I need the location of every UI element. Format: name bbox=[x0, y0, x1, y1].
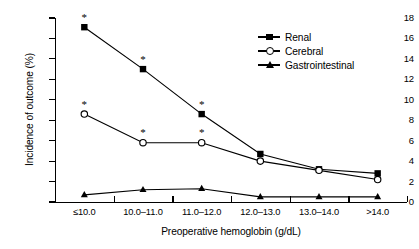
legend-marker-square-icon bbox=[258, 31, 280, 43]
significance-marker-renal-1: * bbox=[140, 53, 146, 65]
data-point-cerebral-2 bbox=[198, 140, 204, 146]
legend-label-cerebral: Cerebral bbox=[285, 46, 323, 57]
data-point-renal-1 bbox=[140, 66, 146, 72]
data-point-renal-2 bbox=[198, 111, 204, 117]
significance-marker-cerebral-1: * bbox=[140, 126, 146, 138]
data-point-cerebral-3 bbox=[257, 158, 263, 164]
legend-label-gastrointestinal: Gastrointestinal bbox=[285, 60, 354, 71]
series-gastrointestinal bbox=[81, 185, 381, 199]
data-point-gastrointestinal-1 bbox=[140, 186, 147, 192]
data-point-renal-3 bbox=[257, 151, 263, 157]
significance-marker-cerebral-2: * bbox=[199, 126, 205, 138]
data-point-gastrointestinal-5 bbox=[374, 193, 381, 199]
legend-label-renal: Renal bbox=[285, 32, 311, 43]
legend-marker-triangle-icon bbox=[258, 59, 280, 71]
chart-legend: Renal Cerebral Gastrointestinal bbox=[258, 30, 354, 72]
legend-marker-circle-icon bbox=[258, 45, 280, 57]
data-point-cerebral-1 bbox=[140, 140, 146, 146]
significance-marker-renal-0: * bbox=[82, 11, 88, 23]
data-point-gastrointestinal-2 bbox=[198, 185, 205, 191]
series-line-gastrointestinal bbox=[84, 189, 377, 197]
series-line-cerebral bbox=[84, 114, 377, 179]
significance-marker-cerebral-0: * bbox=[82, 98, 88, 110]
data-point-cerebral-0 bbox=[81, 111, 87, 117]
legend-item-cerebral: Cerebral bbox=[258, 44, 354, 58]
significance-marker-renal-2: * bbox=[199, 98, 205, 110]
data-point-cerebral-4 bbox=[316, 167, 322, 173]
data-point-gastrointestinal-4 bbox=[316, 193, 323, 199]
data-point-renal-5 bbox=[374, 170, 380, 176]
data-point-renal-0 bbox=[81, 24, 87, 30]
data-point-cerebral-5 bbox=[374, 176, 380, 182]
legend-item-renal: Renal bbox=[258, 30, 354, 44]
legend-item-gastrointestinal: Gastrointestinal bbox=[258, 58, 354, 72]
